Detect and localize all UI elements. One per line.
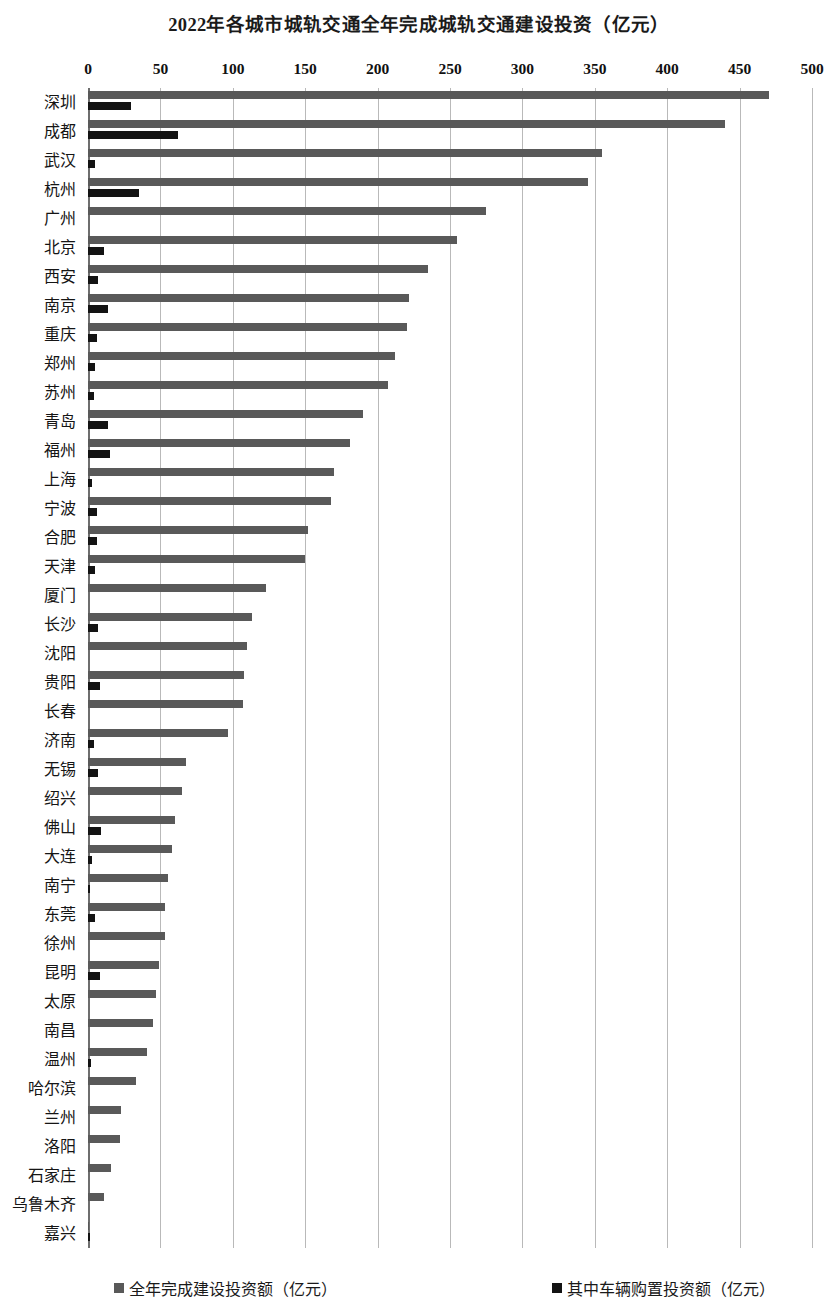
category-label: 上海 [44,472,76,488]
bar-total-investment [88,584,266,592]
bar-total-investment [88,1019,153,1027]
bar-row [88,697,812,726]
bar-total-investment [88,1048,147,1056]
bar-total-investment [88,497,331,505]
x-axis-tick-label: 300 [511,60,534,78]
x-axis-tick-label: 250 [438,60,461,78]
bar-total-investment [88,671,244,679]
bar-row [88,436,812,465]
chart-title: 2022年各城市城轨交通全年完成城轨交通建设投资（亿元） [0,10,838,36]
legend-swatch-icon [114,1283,124,1293]
category-label: 成都 [44,124,76,140]
x-axis-tick-label: 400 [656,60,679,78]
bar-total-investment [88,294,409,302]
category-label: 东莞 [44,907,76,923]
bar-row [88,552,812,581]
bar-row [88,842,812,871]
plot-area [88,88,812,1248]
legend-item[interactable]: 全年完成建设投资额（亿元） [114,1276,337,1300]
bar-row [88,929,812,958]
bar-row [88,204,812,233]
bar-row [88,262,812,291]
bar-vehicle-investment [88,392,94,400]
bar-row [88,407,812,436]
x-axis-tick-label: 150 [294,60,317,78]
bar-row [88,320,812,349]
bar-total-investment [88,729,228,737]
category-label: 石家庄 [28,1168,76,1184]
category-label: 徐州 [44,936,76,952]
category-label: 绍兴 [44,791,76,807]
category-label: 昆明 [44,965,76,981]
x-axis-tick-label: 350 [583,60,606,78]
bar-vehicle-investment [88,769,98,777]
bar-vehicle-investment [88,131,178,139]
bar-total-investment [88,700,243,708]
bar-rows [88,88,812,1248]
bar-vehicle-investment [88,189,139,197]
category-label: 贵阳 [44,675,76,691]
category-label: 沈阳 [44,646,76,662]
bar-row [88,581,812,610]
category-label: 武汉 [44,153,76,169]
category-label: 济南 [44,733,76,749]
category-label: 重庆 [44,327,76,343]
category-label: 广州 [44,211,76,227]
bar-vehicle-investment [88,102,131,110]
bar-total-investment [88,874,168,882]
bar-total-investment [88,1106,121,1114]
legend-label: 其中车辆购置投资额（亿元） [567,1276,775,1300]
bar-vehicle-investment [88,1059,91,1067]
bar-total-investment [88,381,388,389]
y-axis-category-labels: 深圳成都武汉杭州广州北京西安南京重庆郑州苏州青岛福州上海宁波合肥天津厦门长沙沈阳… [0,88,82,1248]
bar-total-investment [88,410,363,418]
bar-total-investment [88,1193,104,1201]
category-label: 长春 [44,704,76,720]
bar-row [88,726,812,755]
bar-row [88,813,812,842]
bar-total-investment [88,990,156,998]
bar-row [88,987,812,1016]
bar-row [88,958,812,987]
category-label: 西安 [44,269,76,285]
category-label: 福州 [44,443,76,459]
bar-total-investment [88,91,769,99]
bar-vehicle-investment [88,566,95,574]
bar-vehicle-investment [88,305,108,313]
bar-total-investment [88,1135,120,1143]
category-label: 苏州 [44,385,76,401]
bar-row [88,639,812,668]
bar-row [88,1074,812,1103]
bar-vehicle-investment [88,885,90,893]
category-label: 郑州 [44,356,76,372]
bar-vehicle-investment [88,276,98,284]
bar-vehicle-investment [88,508,97,516]
legend-item[interactable]: 其中车辆购置投资额（亿元） [552,1276,775,1300]
bar-total-investment [88,178,588,186]
bar-total-investment [88,555,305,563]
bar-vehicle-investment [88,624,98,632]
bar-row [88,378,812,407]
bar-vehicle-investment [88,479,92,487]
bar-total-investment [88,787,182,795]
category-label: 大连 [44,849,76,865]
legend-label: 全年完成建设投资额（亿元） [129,1276,337,1300]
bar-vehicle-investment [88,363,95,371]
category-label: 洛阳 [44,1139,76,1155]
bar-row [88,1190,812,1219]
bar-total-investment [88,120,725,128]
x-axis-tick-label: 50 [153,60,169,78]
bar-total-investment [88,613,252,621]
bar-row [88,1132,812,1161]
bar-row [88,146,812,175]
bar-vehicle-investment [88,682,100,690]
category-label: 青岛 [44,414,76,430]
category-label: 南宁 [44,878,76,894]
category-label: 南昌 [44,1023,76,1039]
bar-row [88,1103,812,1132]
chart-legend: 全年完成建设投资额（亿元）其中车辆购置投资额（亿元） [0,1272,838,1301]
category-label: 南京 [44,298,76,314]
x-axis-tick-label: 0 [84,60,92,78]
bar-total-investment [88,323,407,331]
x-axis-tick-label: 450 [728,60,751,78]
